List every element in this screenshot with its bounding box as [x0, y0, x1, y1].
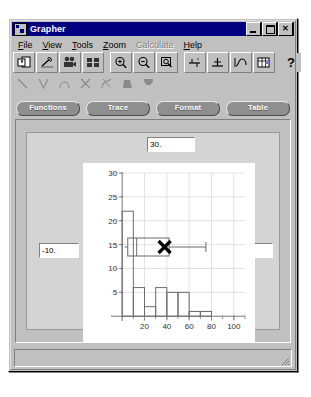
- action-button-bar: Functions Trace Format Table: [13, 99, 293, 117]
- v-curve-icon[interactable]: [34, 74, 54, 93]
- graph-canvas-area: 30. -10. 110. -1. 5101520253020406080100: [26, 132, 280, 330]
- menu-item-file[interactable]: File: [13, 39, 38, 51]
- help-question-icon[interactable]: ?: [281, 53, 301, 72]
- menu-item-calculate: Calculate: [131, 39, 179, 51]
- resize-grip-icon[interactable]: [279, 355, 290, 366]
- window-title: Grapher: [30, 24, 245, 35]
- y-tick-label: 15: [108, 241, 117, 250]
- toolbar-primary: x ?: [13, 52, 293, 72]
- tangent-icon[interactable]: [97, 74, 117, 93]
- toolbar-secondary: [13, 73, 293, 93]
- menu-label-tools-rest: ools: [76, 40, 93, 50]
- menu-label-file-rest: ile: [24, 40, 33, 50]
- title-bar: Grapher ✕: [12, 22, 294, 36]
- x-tick-label: 20: [140, 322, 149, 331]
- x-tick-label: 60: [185, 322, 194, 331]
- graph-bound-top-input[interactable]: 30.: [147, 137, 195, 152]
- graph-bound-left-input[interactable]: -10.: [39, 243, 79, 258]
- svg-text:x: x: [197, 56, 199, 61]
- zoom-in-icon[interactable]: [110, 52, 132, 73]
- close-button[interactable]: ✕: [278, 22, 293, 36]
- histogram-svg: 5101520253020406080100: [83, 163, 255, 343]
- x-tick-label: 100: [227, 322, 241, 331]
- new-document-icon[interactable]: [13, 52, 35, 73]
- menu-label-view-rest: iew: [48, 40, 62, 50]
- status-bar: [14, 349, 292, 367]
- data-table-icon[interactable]: [253, 52, 275, 73]
- histogram-bar: [189, 311, 200, 316]
- menu-item-zoom[interactable]: Zoom: [98, 39, 131, 51]
- histogram-plot[interactable]: 5101520253020406080100: [83, 163, 255, 343]
- y-tick-label: 25: [108, 193, 117, 202]
- menu-item-view[interactable]: View: [38, 39, 67, 51]
- menu-item-help[interactable]: Help: [178, 39, 207, 51]
- minimize-button[interactable]: [246, 22, 261, 36]
- menu-bar: File View Tools Zoom Calculate Help: [13, 38, 293, 51]
- zoom-box-icon[interactable]: [156, 52, 178, 73]
- edit-function-icon[interactable]: [36, 52, 58, 73]
- trace-curve-icon[interactable]: [230, 52, 252, 73]
- x-tick-label: 80: [207, 322, 216, 331]
- histogram-bar: [178, 292, 189, 316]
- app-window-icon: [14, 23, 27, 36]
- menu-label-help-rest: elp: [190, 40, 202, 50]
- format-button[interactable]: Format: [156, 101, 220, 116]
- functions-button[interactable]: Functions: [16, 101, 80, 116]
- x-tick-label: 40: [162, 322, 171, 331]
- application-window: Grapher ✕ File View Tools Zoom Calculate…: [8, 18, 298, 372]
- axis-y-icon[interactable]: [207, 52, 229, 73]
- line-plot-icon[interactable]: [13, 74, 33, 93]
- y-tick-label: 10: [108, 264, 117, 273]
- histogram-bar: [167, 292, 178, 316]
- histogram-bar: [200, 311, 211, 316]
- area-fill-icon[interactable]: [118, 74, 138, 93]
- arc-curve-icon[interactable]: [55, 74, 75, 93]
- histogram-bar: [145, 307, 156, 317]
- cross-curve-icon[interactable]: [76, 74, 96, 93]
- window-controls: ✕: [245, 22, 293, 36]
- menu-label-zoom-rest: oom: [108, 40, 126, 50]
- y-tick-label: 30: [108, 169, 117, 178]
- y-tick-label: 5: [113, 288, 118, 297]
- y-tick-label: 20: [108, 217, 117, 226]
- parabola-fill-icon[interactable]: [139, 74, 159, 93]
- animate-icon[interactable]: [59, 52, 81, 73]
- table-button[interactable]: Table: [226, 101, 290, 116]
- trace-button[interactable]: Trace: [86, 101, 150, 116]
- zoom-out-icon[interactable]: [133, 52, 155, 73]
- tile-windows-icon[interactable]: [82, 52, 104, 73]
- histogram-bar: [122, 211, 133, 316]
- axis-x-icon[interactable]: x: [184, 52, 206, 73]
- menu-item-tools[interactable]: Tools: [67, 39, 98, 51]
- maximize-button[interactable]: [262, 22, 277, 36]
- graph-frame: 30. -10. 110. -1. 5101520253020406080100: [15, 119, 291, 343]
